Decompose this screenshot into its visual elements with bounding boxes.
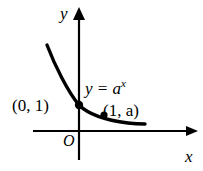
y-axis-label: y: [60, 5, 68, 22]
equation-base: y = a: [85, 79, 121, 98]
point-label-one-a: (1, a): [103, 102, 139, 119]
y-axis-arrowhead: [73, 7, 85, 20]
origin-label: O: [63, 133, 75, 149]
x-axis-label: x: [185, 148, 193, 165]
equation-exponent: x: [121, 77, 126, 89]
point-marker-y-intercept: [75, 101, 83, 109]
exponential-graph-figure: y x O (0, 1) (1, a) y = ax: [0, 0, 203, 171]
point-label-y-intercept: (0, 1): [12, 97, 49, 114]
x-axis-arrowhead: [186, 126, 198, 136]
curve-equation-label: y = ax: [85, 80, 126, 97]
